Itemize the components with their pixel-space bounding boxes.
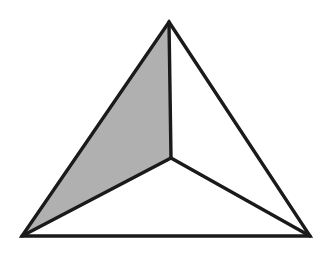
triangle-diagram-svg <box>0 0 325 258</box>
spoke-center-to-apex <box>169 22 171 158</box>
figure-canvas <box>0 0 325 258</box>
